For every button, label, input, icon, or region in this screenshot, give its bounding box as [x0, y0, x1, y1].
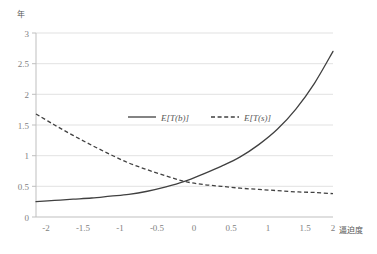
y-axis-ticks: [32, 33, 36, 217]
y-tick-label: 2: [25, 90, 30, 100]
legend-label-0: E[T(b)]: [160, 113, 189, 123]
y-tick-label: 0.5: [18, 182, 30, 192]
x-tick-label: -1.5: [76, 223, 91, 233]
series-line-E-T-b: [36, 51, 333, 201]
y-tick-label: 1.5: [18, 121, 30, 131]
series-paths: [36, 51, 333, 201]
x-tick-label: 0.5: [225, 223, 237, 233]
x-tick-label: -1: [116, 223, 124, 233]
y-axis-unit-label: 年: [17, 8, 25, 19]
y-tick-label: 2.5: [18, 59, 30, 69]
y-tick-label: 0: [25, 213, 30, 223]
line-chart: 3 2.5 2 1.5 1 0.5 0 -2 -1.5 -1 -0.5 0 0.…: [0, 0, 377, 254]
x-tick-label: -2: [42, 223, 50, 233]
x-axis-unit-label: 逼迫度: [339, 224, 363, 235]
legend: E[T(b)] E[T(s)]: [128, 113, 272, 123]
x-tick-label: 1: [266, 223, 271, 233]
x-tick-labels: -2 -1.5 -1 -0.5 0 0.5 1 1.5 2: [42, 223, 335, 233]
legend-label-1: E[T(s)]: [243, 113, 272, 123]
x-tick-label: 2: [331, 223, 336, 233]
y-tick-label: 1: [25, 151, 30, 161]
x-tick-label: 1.5: [299, 223, 311, 233]
chart-figure: 3 2.5 2 1.5 1 0.5 0 -2 -1.5 -1 -0.5 0 0.…: [0, 0, 377, 254]
gridlines: [36, 33, 333, 186]
y-tick-label: 3: [25, 29, 30, 39]
x-tick-label: -0.5: [150, 223, 165, 233]
y-tick-labels: 3 2.5 2 1.5 1 0.5 0: [18, 29, 30, 223]
x-tick-label: 0: [192, 223, 197, 233]
